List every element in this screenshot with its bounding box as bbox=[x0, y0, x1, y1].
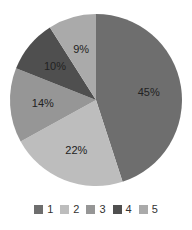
legend-label: 3 bbox=[99, 203, 105, 215]
legend-item-5: 5 bbox=[139, 203, 158, 215]
legend-label: 5 bbox=[152, 203, 158, 215]
slice-label: 45% bbox=[138, 86, 160, 98]
slice-label: 9% bbox=[73, 43, 89, 55]
slice-label: 14% bbox=[32, 97, 54, 109]
legend-swatch bbox=[60, 205, 69, 214]
legend-item-2: 2 bbox=[60, 203, 79, 215]
slice-label: 10% bbox=[44, 60, 66, 72]
legend-label: 2 bbox=[73, 203, 79, 215]
legend-item-1: 1 bbox=[34, 203, 53, 215]
slice-label: 22% bbox=[65, 144, 87, 156]
legend-label: 4 bbox=[126, 203, 132, 215]
legend-swatch bbox=[113, 205, 122, 214]
legend-label: 1 bbox=[47, 203, 53, 215]
pie-chart: 45%22%14%10%9% bbox=[0, 0, 192, 200]
legend-swatch bbox=[139, 205, 148, 214]
legend-item-4: 4 bbox=[113, 203, 132, 215]
legend-swatch bbox=[34, 205, 43, 214]
legend-item-3: 3 bbox=[86, 203, 105, 215]
chart-legend: 1 2 3 4 5 bbox=[0, 203, 192, 215]
legend-swatch bbox=[86, 205, 95, 214]
